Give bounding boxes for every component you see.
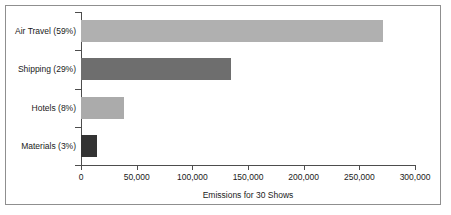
value-tick-label-2: 100,000: [177, 172, 208, 182]
chart-figure: Air Travel (59%) Shipping (29%) Hotels (…: [0, 0, 451, 215]
value-tick-label-4: 200,000: [288, 172, 319, 182]
category-label-shipping: Shipping (29%): [2, 64, 76, 74]
category-label-materials: Materials (3%): [2, 141, 76, 151]
x-axis-title: Emissions for 30 Shows: [81, 190, 415, 200]
value-tick-2: [192, 166, 193, 170]
plot-area: [81, 12, 415, 165]
value-tick-0: [81, 166, 82, 170]
category-axis-labels: Air Travel (59%) Shipping (29%) Hotels (…: [0, 0, 76, 215]
bar-air-travel: [81, 20, 383, 42]
value-tick-label-5: 250,000: [344, 172, 375, 182]
bar-materials: [81, 135, 97, 157]
value-tick-label-1: 50,000: [124, 172, 150, 182]
value-tick-3: [248, 166, 249, 170]
value-tick-label-3: 150,000: [233, 172, 264, 182]
value-tick-4: [304, 166, 305, 170]
category-label-air-travel: Air Travel (59%): [2, 26, 76, 36]
value-tick-5: [359, 166, 360, 170]
bar-shipping: [81, 58, 231, 80]
value-tick-6: [415, 166, 416, 170]
value-tick-1: [137, 166, 138, 170]
value-tick-label-6: 300,000: [400, 172, 431, 182]
bar-hotels: [81, 97, 124, 119]
category-label-hotels: Hotels (8%): [2, 103, 76, 113]
value-tick-label-0: 0: [79, 172, 84, 182]
